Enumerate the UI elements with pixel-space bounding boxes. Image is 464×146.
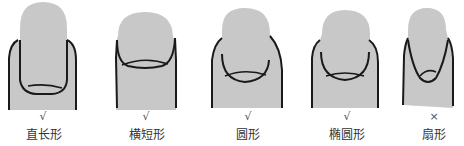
nail-round-drawing — [200, 0, 290, 115]
nail-straight-long-drawing — [0, 0, 90, 115]
nail-horizontal-short — [100, 0, 190, 115]
check-mark-round: √ — [228, 110, 268, 123]
nail-oval-drawing — [300, 0, 390, 115]
finger-body — [403, 8, 453, 108]
label-oval: 椭圆形 — [317, 125, 377, 142]
cross-mark-fan: × — [414, 110, 454, 123]
nail-horizontal-short-drawing — [100, 0, 190, 115]
nail-oval — [300, 0, 390, 115]
finger-outline-right — [175, 38, 176, 108]
label-fan: 扇形 — [404, 125, 464, 142]
check-mark-horizontal-short: √ — [126, 110, 166, 123]
label-straight-long: 直长形 — [14, 125, 74, 142]
check-mark-oval: √ — [327, 110, 367, 123]
check-mark-straight-long: √ — [23, 110, 63, 123]
nail-round — [200, 0, 290, 115]
nail-fan — [390, 0, 464, 115]
nail-straight-long — [0, 0, 90, 115]
label-horizontal-short: 横短形 — [117, 125, 177, 142]
nail-fan-drawing — [390, 0, 464, 115]
label-round: 圆形 — [218, 125, 278, 142]
